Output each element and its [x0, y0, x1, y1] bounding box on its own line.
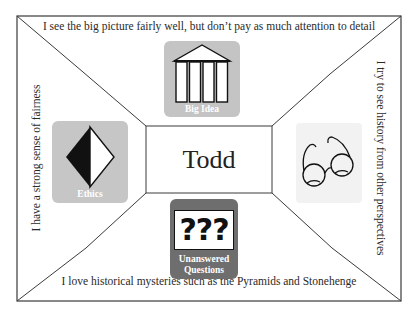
questions-caption-line1: Unanswered — [170, 254, 238, 265]
glasses-icon — [296, 123, 362, 203]
questions-caption-line2: Questions — [170, 265, 238, 276]
center-name: Todd — [146, 126, 272, 193]
ethics-caption: Ethics — [52, 189, 128, 200]
question-marks-icon: ??? — [174, 210, 234, 250]
left-statement: I have a strong sense of fairness — [30, 85, 42, 232]
unanswered-questions-tile: ??? Unanswered Questions — [170, 199, 238, 279]
top-statement: I see the big picture fairly well, but d… — [17, 20, 401, 32]
right-statement: I try to see history from other perspect… — [375, 60, 387, 255]
big-idea-caption: Big Idea — [164, 104, 240, 115]
big-idea-tile: Big Idea — [164, 41, 240, 117]
ethics-tile: Ethics — [52, 121, 128, 203]
question-marks-text: ??? — [179, 215, 228, 245]
perspectives-tile — [296, 123, 362, 203]
